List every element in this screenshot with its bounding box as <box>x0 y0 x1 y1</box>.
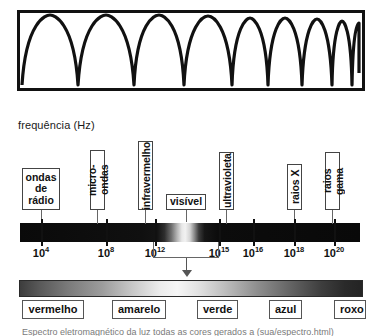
spectrum-category-label: ondas de rádio <box>26 172 57 207</box>
spectrum-category-0: ondas de rádio <box>22 168 60 210</box>
tick-exponent: 8 <box>110 245 114 254</box>
axis-tick <box>334 219 336 246</box>
down-arrow-icon <box>182 270 192 277</box>
visible-color-azul: azul <box>269 300 302 319</box>
visible-color-roxo: roxo <box>334 300 366 319</box>
waveform-panel <box>17 10 365 91</box>
axis-tick <box>41 219 43 246</box>
waveform-svg <box>20 13 362 88</box>
spectrum-category-2: infravermelho <box>138 141 153 210</box>
tick-base: 10 <box>98 247 110 259</box>
category-leader-line <box>145 210 146 224</box>
tick-exponent: 16 <box>255 245 263 254</box>
tick-exponent: 15 <box>221 245 229 254</box>
category-leader-line <box>332 210 333 224</box>
spectrum-category-6: raios gama <box>325 152 340 210</box>
axis-tick-label: 104 <box>33 247 49 259</box>
tick-exponent: 4 <box>45 245 49 254</box>
tick-base: 10 <box>284 247 296 259</box>
axis-tick <box>106 219 108 246</box>
visible-color-vermelho: vermelho <box>22 300 84 319</box>
spectrum-category-label: ultravioleta <box>221 154 233 209</box>
visible-light-bar <box>19 280 363 297</box>
tick-base: 10 <box>243 247 255 259</box>
frequency-axis-label: frequência (Hz) <box>18 119 95 131</box>
spectrum-category-label: visível <box>170 196 202 208</box>
category-leader-line <box>186 210 187 222</box>
spectrum-category-label: raios gama <box>321 155 345 207</box>
axis-tick <box>294 219 296 246</box>
source-caption: Espectro eletromagnético da luz todas as… <box>22 327 362 336</box>
electromagnetic-spectrum-bar <box>20 223 360 242</box>
spectrum-category-label: micro-ondas <box>86 153 110 207</box>
spectrum-category-label: raios X <box>289 170 301 204</box>
category-leader-line <box>97 210 98 224</box>
visible-color-amarelo: amarelo <box>112 300 166 319</box>
axis-tick <box>219 219 221 246</box>
visible-color-verde: verde <box>197 300 238 319</box>
axis-tick-label: 1020 <box>324 247 345 259</box>
category-leader-line <box>226 210 227 224</box>
axis-tick <box>253 219 255 246</box>
visible-range-bracket <box>153 242 219 258</box>
spectrum-category-label: infravermelho <box>140 141 152 209</box>
spectrum-category-1: micro-ondas <box>90 150 105 210</box>
axis-tick-label: 1018 <box>284 247 305 259</box>
axis-tick-label: 1016 <box>243 247 264 259</box>
tick-base: 10 <box>33 247 45 259</box>
axis-tick-label: 108 <box>98 247 114 259</box>
waveform-path <box>22 15 359 85</box>
spectrum-category-4: ultravioleta <box>219 152 234 210</box>
spectrum-category-3: visível <box>166 194 206 210</box>
tick-base: 10 <box>324 247 336 259</box>
spectrum-category-5: raios X <box>287 164 302 210</box>
tick-exponent: 18 <box>296 245 304 254</box>
tick-exponent: 20 <box>336 245 344 254</box>
